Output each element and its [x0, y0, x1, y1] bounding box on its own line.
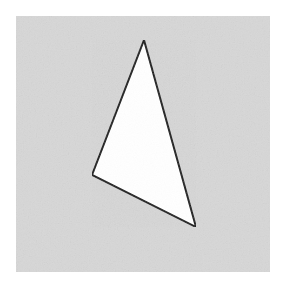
figure-canvas: Triangle on gray background [0, 0, 287, 295]
triangle-figure [0, 0, 287, 295]
